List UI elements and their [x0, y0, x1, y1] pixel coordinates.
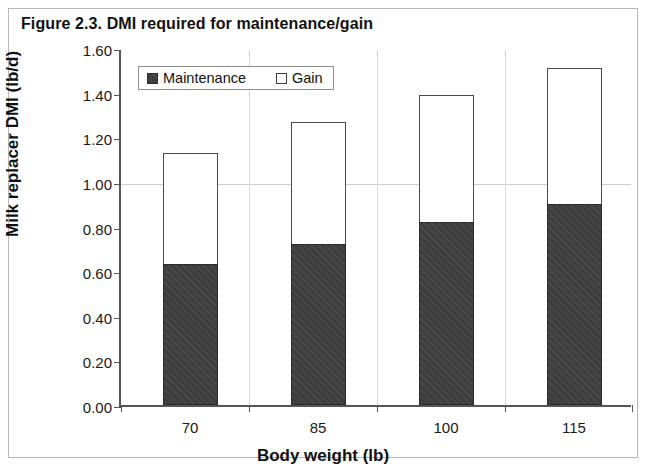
category-separator	[249, 50, 250, 405]
figure-title: Figure 2.3. DMI required for maintenance…	[21, 15, 373, 33]
y-tick-label: 0.40	[83, 309, 112, 326]
x-tick-label: 85	[310, 419, 327, 436]
x-tick	[632, 405, 633, 412]
x-tick-label: 100	[433, 419, 458, 436]
figure-frame: Figure 2.3. DMI required for maintenance…	[8, 8, 638, 458]
bar-segment-maintenance	[163, 264, 218, 405]
bar-100[interactable]	[419, 95, 474, 405]
category-separator	[377, 50, 378, 405]
chart-legend: Maintenance Gain	[138, 66, 334, 90]
bar-115[interactable]	[547, 68, 602, 405]
category-separator	[505, 50, 506, 405]
x-tick-label: 115	[562, 419, 586, 436]
y-tick	[114, 229, 121, 230]
y-tick-label: 1.40	[83, 86, 112, 103]
x-tick	[505, 405, 506, 412]
bar-segment-maintenance	[547, 204, 602, 405]
y-tick	[114, 407, 121, 408]
plot-area: 1.60 1.40 1.20 1.00 0.80 0.60 0.40 0.20 …	[119, 50, 631, 407]
x-tick	[249, 405, 250, 412]
legend-item-maintenance[interactable]: Maintenance	[147, 70, 246, 86]
bar-85[interactable]	[291, 122, 346, 405]
x-tick-label: 70	[182, 419, 199, 436]
y-tick-label: 1.20	[83, 131, 112, 148]
x-tick	[121, 405, 122, 412]
legend-swatch-gain-icon	[276, 73, 287, 84]
y-tick-label: 1.60	[83, 42, 112, 59]
y-tick	[114, 139, 121, 140]
x-axis-title: Body weight (lb)	[9, 446, 637, 466]
bar-segment-maintenance	[291, 244, 346, 405]
y-tick	[114, 318, 121, 319]
bar-70[interactable]	[163, 153, 218, 405]
legend-label-gain: Gain	[292, 70, 323, 86]
y-tick	[114, 50, 121, 51]
y-tick-label: 0.00	[83, 399, 112, 416]
y-tick-label: 1.00	[83, 175, 112, 192]
y-tick	[114, 95, 121, 96]
y-tick	[114, 362, 121, 363]
legend-item-gain[interactable]: Gain	[276, 70, 323, 86]
legend-label-maintenance: Maintenance	[163, 70, 246, 86]
y-tick-label: 0.20	[83, 354, 112, 371]
y-axis-title: Milk replacer DMI (lb/d)	[3, 51, 23, 237]
legend-swatch-maintenance-icon	[147, 73, 158, 84]
y-tick	[114, 273, 121, 274]
y-tick-label: 0.80	[83, 220, 112, 237]
y-tick	[114, 184, 121, 185]
x-tick	[377, 405, 378, 412]
bar-segment-maintenance	[419, 222, 474, 405]
y-tick-label: 0.60	[83, 265, 112, 282]
